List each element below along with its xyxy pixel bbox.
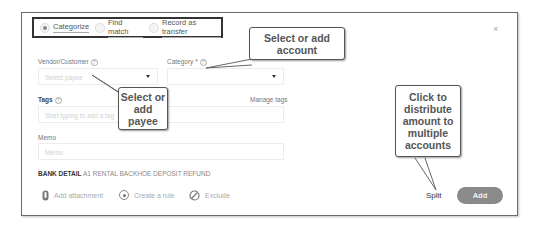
callout-split: Click to distribute amount to multiple a… bbox=[395, 85, 461, 157]
callout-select-account: Select or add account bbox=[249, 27, 345, 60]
callout-select-payee: Select or add payee bbox=[118, 87, 168, 130]
